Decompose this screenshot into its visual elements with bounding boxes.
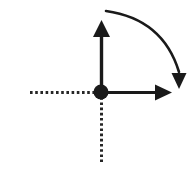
origin-point <box>94 85 109 100</box>
rotation-diagram-figure <box>0 0 193 172</box>
diagram-canvas <box>0 0 193 172</box>
